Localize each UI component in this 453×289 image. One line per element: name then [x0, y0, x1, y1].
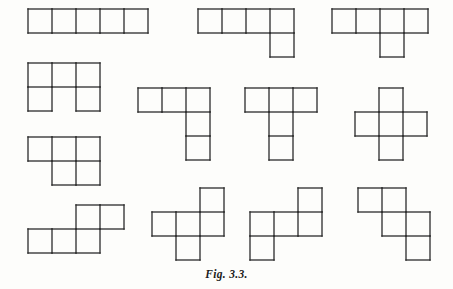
pentomino-u-pentomino — [28, 63, 100, 111]
pentomino-s-pentomino — [250, 188, 322, 260]
pentomino-figure — [0, 0, 453, 289]
pentomino-x-pentomino — [355, 88, 427, 160]
pentomino-t-pentomino — [245, 88, 317, 160]
pentomino-n-pentomino — [28, 205, 124, 253]
pentomino-y-pentomino — [332, 9, 428, 57]
pentomino-i-pentomino — [28, 9, 148, 33]
pentomino-f-pentomino — [152, 188, 224, 260]
pentomino-w-pentomino — [358, 188, 430, 260]
figure-caption: Fig. 3.3. — [0, 268, 453, 280]
pentomino-l-pentomino — [198, 9, 294, 57]
pentomino-v-pentomino — [138, 88, 210, 160]
pentomino-p-pentomino — [28, 137, 100, 185]
